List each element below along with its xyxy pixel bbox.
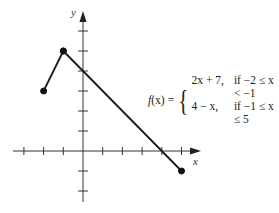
left-brace: { [178, 87, 188, 113]
case-2-condition: if −1 ≤ x ≤ 5 [234, 100, 279, 126]
equation-cases: 2x + 7, if −2 ≤ x < −1 4 − x, if −1 ≤ x … [192, 74, 279, 126]
endpoint-dot [179, 168, 185, 174]
y-axis [80, 11, 87, 202]
case-2-expression: 4 − x, [192, 100, 224, 126]
x-axis-label: x [193, 155, 198, 167]
case-1-expression: 2x + 7, [192, 74, 224, 100]
case-1-condition: if −2 ≤ x < −1 [234, 74, 279, 100]
piecewise-equation: f(x) = { 2x + 7, if −2 ≤ x < −1 4 − x, i… [148, 74, 279, 126]
series-line-1 [44, 51, 64, 91]
x-axis [13, 148, 201, 155]
equals-sign: = [168, 94, 175, 106]
y-axis-label: y [71, 6, 76, 18]
endpoint-dot [60, 48, 66, 54]
endpoint-dot [41, 88, 47, 94]
equation-lhs: f(x) [148, 94, 165, 106]
